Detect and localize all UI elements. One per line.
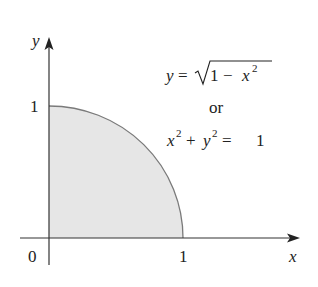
origin-label: 0 <box>28 247 37 266</box>
equation-or: or <box>209 98 224 117</box>
svg-text:1: 1 <box>210 66 219 85</box>
svg-text:2: 2 <box>212 127 218 139</box>
svg-text:=: = <box>178 66 188 85</box>
svg-text:1: 1 <box>256 131 265 150</box>
svg-text:y: y <box>164 66 174 85</box>
svg-text:x: x <box>241 66 250 85</box>
equation-line-1: y = 1 − x 2 <box>164 61 272 85</box>
svg-text:−: − <box>223 66 233 85</box>
svg-text:y: y <box>201 131 211 150</box>
x-axis-label: x <box>288 247 297 266</box>
svg-text:=: = <box>222 131 232 150</box>
shaded-region <box>49 106 183 238</box>
sqrt-sign <box>195 61 272 84</box>
y-tick-label: 1 <box>30 97 39 116</box>
x-tick-label: 1 <box>179 247 188 266</box>
svg-text:x: x <box>166 131 175 150</box>
svg-text:2: 2 <box>176 127 182 139</box>
svg-text:+: + <box>186 131 196 150</box>
equation-line-3: x 2 + y 2 = 1 <box>166 127 265 150</box>
quarter-circle-figure: y x 0 1 1 y = 1 − x 2 or x 2 + y 2 = 1 <box>0 0 318 287</box>
y-axis-label: y <box>30 31 40 50</box>
svg-text:2: 2 <box>252 62 258 74</box>
